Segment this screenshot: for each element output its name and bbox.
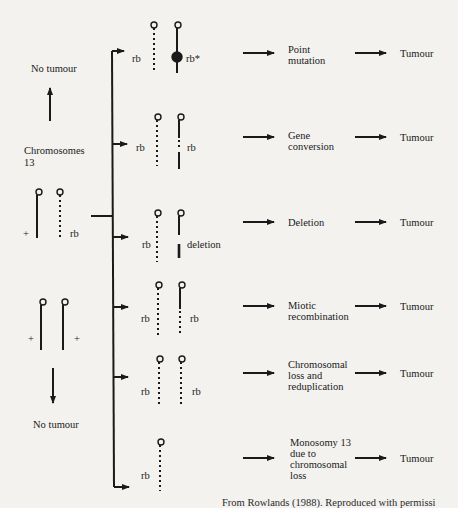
bottom-no-tumour-label: No tumour [33,419,79,430]
outcome-tumour-3: Tumour [400,217,433,228]
heterozygote-rb-label: rb [70,228,79,239]
chromosomes-label: Chromosomes [24,145,85,156]
branch-deletion-label-right: deletion [187,239,221,250]
branch-trunk [112,51,114,487]
outcome-tumour-1: Tumour [400,48,433,59]
branch-miotic-rb-left: rb [141,313,150,324]
outcome-tumour-2: Tumour [400,132,433,143]
branch-loss-rb-right: rb [192,386,201,397]
branch-point-mutation-rb-left: rb [132,53,141,64]
normal-pair-right-plus: + [74,333,80,344]
outcome-tumour-5: Tumour [400,368,433,379]
branch-loss-rb-left: rb [141,386,150,397]
branch-gene-conversion-rb-right: rb [187,142,196,153]
mechanism-miotic-recombination: Miotic recombination [288,300,349,322]
top-no-tumour-label: No tumour [31,63,77,74]
branch-deletion-rb-left: rb [142,239,151,250]
mechanism-point-mutation: Point mutation [288,44,325,66]
heterozygote-plus-mark: + [23,228,29,239]
chromosomes-number-label: 13 [24,157,35,168]
mechanism-chromosomal-loss: Chromosomal loss and reduplication [288,359,348,392]
normal-pair-left-plus: + [28,333,34,344]
outcome-tumour-6: Tumour [400,453,433,464]
branch-miotic-rb-right: rb [190,313,199,324]
figure-caption: From Rowlands (1988). Reproduced with pe… [222,497,435,508]
branch-gene-conversion-rb-left: rb [136,142,145,153]
branch-monosomy-rb-left: rb [141,470,150,481]
outcome-tumour-4: Tumour [400,301,433,312]
mechanism-monosomy-13: Monosomy 13 due to chromosomal loss [290,437,351,481]
branch-point-mutation-rb-right: rb* [186,53,200,64]
mechanism-deletion: Deletion [288,217,324,228]
mechanism-gene-conversion: Gene conversion [288,130,334,152]
